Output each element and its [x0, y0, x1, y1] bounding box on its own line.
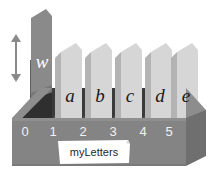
box-bottom-edge [12, 164, 186, 166]
card-side-3 [115, 52, 121, 124]
card-side-1 [55, 52, 61, 124]
card-face-4 [151, 43, 172, 118]
card-side-2 [85, 52, 91, 124]
card-face-2 [91, 43, 112, 118]
box-front-top-highlight [12, 118, 186, 121]
box-right-face [186, 110, 206, 166]
array-illustration: w a b c d e 0 1 2 3 4 5 myLetters [0, 0, 215, 182]
height-indicator-arrow [11, 34, 21, 82]
card-side-5 [171, 52, 177, 124]
array-diagram-stage: w a b c d e 0 1 2 3 4 5 myLetters [0, 0, 215, 182]
card-side-4 [145, 52, 151, 124]
card-face-1 [61, 43, 82, 118]
array-box-graphic [0, 0, 215, 182]
label-plate [58, 140, 130, 164]
card-face-3 [121, 43, 142, 118]
arrow-head-down [11, 74, 21, 82]
arrow-head-up [11, 34, 21, 42]
